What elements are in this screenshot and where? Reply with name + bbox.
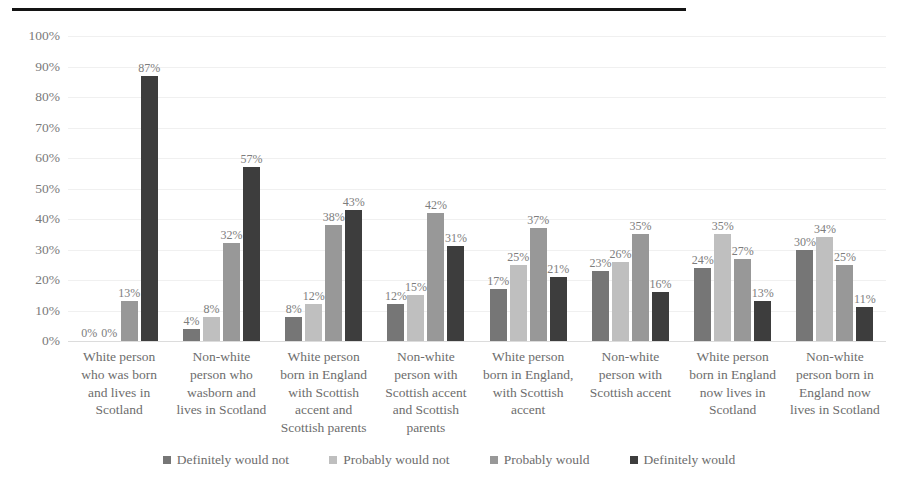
legend-swatch-icon <box>490 456 498 464</box>
x-axis-category-label: White person born in England now lives i… <box>682 348 784 437</box>
y-axis-tick-label: 80% <box>35 90 60 104</box>
bar[interactable]: 43% <box>345 210 362 341</box>
bar[interactable]: 4% <box>183 329 200 341</box>
bar[interactable]: 30% <box>796 250 813 342</box>
bar-slot: 35% <box>714 36 731 341</box>
bar-group-bars: 30%34%25%11% <box>784 36 886 341</box>
bar-value-label: 17% <box>487 275 509 287</box>
bar-value-label: 0% <box>101 327 117 339</box>
bar-slot: 87% <box>141 36 158 341</box>
bar[interactable]: 27% <box>734 259 751 341</box>
bar-value-label: 23% <box>589 257 611 269</box>
legend-label: Definitely would <box>644 452 736 468</box>
legend-label: Probably would not <box>343 452 450 468</box>
bar-slot: 38% <box>325 36 342 341</box>
legend-item[interactable]: Probably would not <box>329 452 450 468</box>
bar[interactable]: 37% <box>530 228 547 341</box>
bar[interactable]: 13% <box>754 301 771 341</box>
bar-value-label: 13% <box>752 287 774 299</box>
legend-item[interactable]: Probably would <box>490 452 590 468</box>
x-axis-category-label: Non-white person with Scottish accent an… <box>375 348 477 437</box>
bar-slot: 31% <box>447 36 464 341</box>
bar-slot: 15% <box>407 36 424 341</box>
legend-swatch-icon <box>329 456 337 464</box>
bar-slot: 11% <box>856 36 873 341</box>
bar-value-label: 13% <box>118 287 140 299</box>
bar[interactable]: 23% <box>592 271 609 341</box>
x-axis-category-label: Non-white person who wasborn and lives i… <box>170 348 272 437</box>
bar-slot: 27% <box>734 36 751 341</box>
bar-value-label: 16% <box>649 278 671 290</box>
bar-value-label: 32% <box>220 229 242 241</box>
x-axis-line <box>68 341 886 342</box>
bar[interactable]: 11% <box>856 307 873 341</box>
bar-group: 17%25%37%21% <box>477 36 579 341</box>
legend-item[interactable]: Definitely would <box>630 452 736 468</box>
bar-group: 0%0%13%87% <box>68 36 170 341</box>
bar-group: 8%12%38%43% <box>273 36 375 341</box>
y-axis-tick-label: 70% <box>35 121 60 135</box>
bar[interactable]: 16% <box>652 292 669 341</box>
y-axis-tick-label: 40% <box>35 212 60 226</box>
x-axis-category-label: White person born in England with Scotti… <box>273 348 375 437</box>
bar[interactable]: 17% <box>490 289 507 341</box>
bar[interactable]: 32% <box>223 243 240 341</box>
bar[interactable]: 8% <box>203 317 220 341</box>
legend-item[interactable]: Definitely would not <box>163 452 289 468</box>
bar[interactable]: 87% <box>141 76 158 341</box>
bar-group: 24%35%27%13% <box>682 36 784 341</box>
bar[interactable]: 35% <box>632 234 649 341</box>
bar-group: 30%34%25%11% <box>784 36 886 341</box>
bar-value-label: 12% <box>385 290 407 302</box>
bar-slot: 25% <box>836 36 853 341</box>
bar-slot: 12% <box>305 36 322 341</box>
bar-slot: 24% <box>694 36 711 341</box>
bar[interactable]: 31% <box>447 246 464 341</box>
bar[interactable]: 25% <box>510 265 527 341</box>
bar[interactable]: 12% <box>387 304 404 341</box>
bar-value-label: 27% <box>732 245 754 257</box>
bar[interactable]: 13% <box>121 301 138 341</box>
bar[interactable]: 24% <box>694 268 711 341</box>
bar-slot: 26% <box>612 36 629 341</box>
bar-slot: 17% <box>490 36 507 341</box>
bar-group: 12%15%42%31% <box>375 36 477 341</box>
bar[interactable]: 57% <box>243 167 260 341</box>
bar[interactable]: 42% <box>427 213 444 341</box>
bar-value-label: 30% <box>794 236 816 248</box>
bar-value-label: 35% <box>629 220 651 232</box>
bar[interactable]: 26% <box>612 262 629 341</box>
bar-slot: 0% <box>81 36 98 341</box>
bar-value-label: 57% <box>240 153 262 165</box>
bar-slot: 43% <box>345 36 362 341</box>
bar[interactable]: 25% <box>836 265 853 341</box>
bar-value-label: 37% <box>527 214 549 226</box>
bar[interactable]: 12% <box>305 304 322 341</box>
bar-value-label: 25% <box>507 251 529 263</box>
bar[interactable]: 38% <box>325 225 342 341</box>
bar[interactable]: 34% <box>816 237 833 341</box>
bar-value-label: 21% <box>547 263 569 275</box>
legend-label: Probably would <box>504 452 590 468</box>
bar[interactable]: 35% <box>714 234 731 341</box>
bar-slot: 4% <box>183 36 200 341</box>
bar-group: 4%8%32%57% <box>170 36 272 341</box>
y-axis-tick-label: 100% <box>29 29 61 43</box>
x-axis-category-label: Non-white person with Scottish accent <box>579 348 681 437</box>
bar-slot: 34% <box>816 36 833 341</box>
bar-value-label: 15% <box>405 281 427 293</box>
bar-value-label: 4% <box>183 315 199 327</box>
chart-legend: Definitely would notProbably would notPr… <box>0 452 898 468</box>
plot-area: 100%90%80%70%60%50%40%30%20%10%0% 0%0%13… <box>68 36 886 341</box>
bar-slot: 21% <box>550 36 567 341</box>
bar[interactable]: 15% <box>407 295 424 341</box>
bar[interactable]: 21% <box>550 277 567 341</box>
y-axis-tick-label: 0% <box>42 334 60 348</box>
y-axis-tick-label: 10% <box>35 304 60 318</box>
bar-value-label: 34% <box>814 223 836 235</box>
bar-value-label: 42% <box>425 199 447 211</box>
bar-value-label: 25% <box>834 251 856 263</box>
bar[interactable]: 8% <box>285 317 302 341</box>
bar-value-label: 43% <box>343 196 365 208</box>
y-axis-tick-label: 20% <box>35 273 60 287</box>
